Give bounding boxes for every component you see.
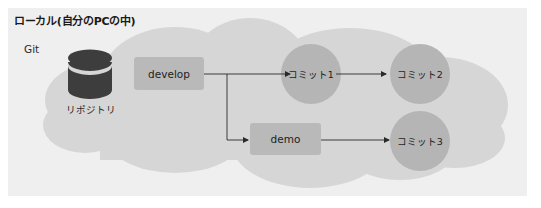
repository-label: リポジトリ	[66, 102, 116, 116]
branch-demo: demo	[250, 123, 321, 155]
commit-2-label: コミット2	[397, 67, 442, 81]
branch-develop: develop	[134, 57, 204, 90]
commit-2-node: コミット2	[390, 44, 450, 104]
commit-1-node: コミット1	[281, 44, 341, 104]
database-icon	[66, 48, 114, 100]
diagram-title: ローカル(自分のPCの中)	[14, 12, 135, 28]
git-label: Git	[24, 43, 39, 55]
commit-3-node: コミット3	[390, 111, 450, 171]
commit-3-label: コミット3	[397, 134, 442, 148]
branch-develop-label: develop	[148, 68, 190, 80]
commit-1-label: コミット1	[288, 67, 333, 81]
branch-demo-label: demo	[271, 133, 301, 145]
